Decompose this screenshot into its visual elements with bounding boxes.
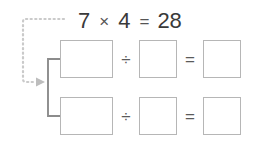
row-bracket bbox=[48, 59, 60, 116]
divide-symbol-1: ÷ bbox=[113, 40, 139, 78]
math-worksheet: 7 × 4 = 28 ÷ = ÷ = bbox=[0, 0, 254, 146]
quotient-box-1[interactable] bbox=[203, 40, 241, 78]
arrowhead-icon bbox=[36, 78, 45, 87]
dividend-box-2[interactable] bbox=[60, 97, 113, 135]
factor-b: 4 bbox=[118, 10, 130, 32]
divisor-box-2[interactable] bbox=[139, 97, 177, 135]
multiplication-equation: 7 × 4 = 28 bbox=[78, 6, 250, 36]
equals-symbol: = bbox=[139, 13, 149, 30]
factor-a: 7 bbox=[78, 10, 90, 32]
quotient-box-2[interactable] bbox=[203, 97, 241, 135]
dividend-box-1[interactable] bbox=[60, 40, 113, 78]
dotted-arrow bbox=[23, 19, 64, 87]
division-row-1: ÷ = bbox=[60, 40, 241, 78]
division-row-2: ÷ = bbox=[60, 97, 241, 135]
equals-symbol-2: = bbox=[177, 97, 203, 135]
product: 28 bbox=[157, 10, 181, 32]
equals-symbol-1: = bbox=[177, 40, 203, 78]
multiply-symbol: × bbox=[99, 13, 109, 30]
divide-symbol-2: ÷ bbox=[113, 97, 139, 135]
divisor-box-1[interactable] bbox=[139, 40, 177, 78]
